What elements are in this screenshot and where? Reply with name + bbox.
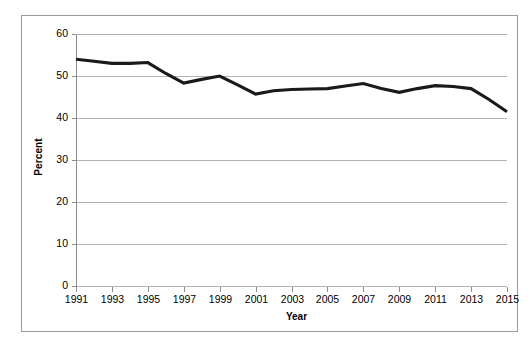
tickmarks-group	[72, 35, 508, 292]
x-tick-label: 2005	[316, 293, 340, 305]
y-tick-label: 50	[56, 69, 68, 81]
line-chart-canvas: 0102030405060 19911993199519971999200120…	[22, 16, 519, 333]
x-tick-label: 2015	[496, 293, 519, 305]
y-tick-label: 30	[56, 153, 68, 165]
plot-wrapper: Percent 0102030405060 199119931995199719…	[22, 16, 519, 333]
x-tick-label: 2009	[388, 293, 412, 305]
chart-figure: Percent 0102030405060 199119931995199719…	[0, 0, 531, 346]
y-axis-tick-labels: 0102030405060	[56, 27, 68, 291]
gridlines-group	[76, 35, 507, 287]
data-line-series-1	[76, 59, 507, 111]
data-series-group	[76, 59, 507, 111]
x-tick-label: 2013	[460, 293, 484, 305]
y-tick-label: 10	[56, 237, 68, 249]
y-tick-label: 60	[56, 27, 68, 39]
x-tick-label: 1997	[173, 293, 197, 305]
y-tick-label: 40	[56, 111, 68, 123]
chart-frame: Percent 0102030405060 199119931995199719…	[21, 15, 518, 332]
x-tick-label: 1993	[101, 293, 125, 305]
x-tick-label: 1999	[209, 293, 233, 305]
x-axis-title: Year	[22, 311, 519, 322]
x-tick-label: 1995	[137, 293, 161, 305]
y-tick-label: 0	[62, 279, 68, 291]
x-tick-label: 2011	[424, 293, 447, 305]
x-tick-label: 2007	[352, 293, 376, 305]
x-axis-title-text: Year	[286, 311, 307, 322]
x-tick-label: 2001	[245, 293, 269, 305]
x-axis-tick-labels: 1991199319951997199920012003200520072009…	[65, 293, 519, 305]
x-tick-label: 1991	[65, 293, 89, 305]
x-tick-label: 2003	[281, 293, 305, 305]
y-tick-label: 20	[56, 195, 68, 207]
